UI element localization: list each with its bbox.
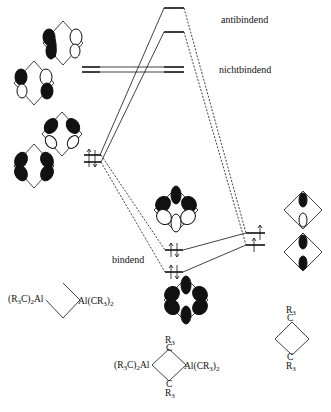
orbital-right-a [284, 191, 322, 229]
formula-center-bottom-group: R3 [165, 388, 175, 400]
label-bonding: bindend [112, 254, 144, 265]
structure-left-ring [46, 283, 80, 318]
formula-left-fragment-left: (R3C)2Al [8, 294, 44, 306]
formula-center-right: Al(CR3)2 [184, 361, 220, 373]
correlation-lines-dashed [101, 8, 246, 272]
orbital-right-b [284, 233, 322, 271]
electron-pairs-left [87, 149, 97, 167]
formula-center-top-atom: C [166, 343, 172, 353]
electrons-right [252, 225, 262, 252]
structure-center-ring [152, 349, 186, 381]
orbital-left-bonding-a [41, 112, 82, 156]
electron-pairs-center [169, 243, 179, 279]
label-antibonding: antibindend [221, 14, 268, 25]
formula-right-top-atom: C [287, 313, 293, 323]
label-nonbonding: nichtbindend [219, 64, 271, 75]
formula-right-bottom-group: R3 [286, 361, 296, 373]
orbital-left-nonbonding-a [43, 21, 83, 65]
formula-left-fragment-right: Al(CR3)2 [78, 296, 114, 308]
orbital-center-bonding-a [152, 186, 199, 232]
correlation-lines-solid [100, 8, 246, 272]
orbital-left-bonding-b [12, 144, 56, 188]
orbital-left-nonbonding-b [14, 61, 54, 105]
structure-right-ring [275, 322, 309, 355]
formula-center-left: (R3C)2Al [114, 360, 150, 372]
orbital-center-bonding-b [161, 276, 210, 324]
